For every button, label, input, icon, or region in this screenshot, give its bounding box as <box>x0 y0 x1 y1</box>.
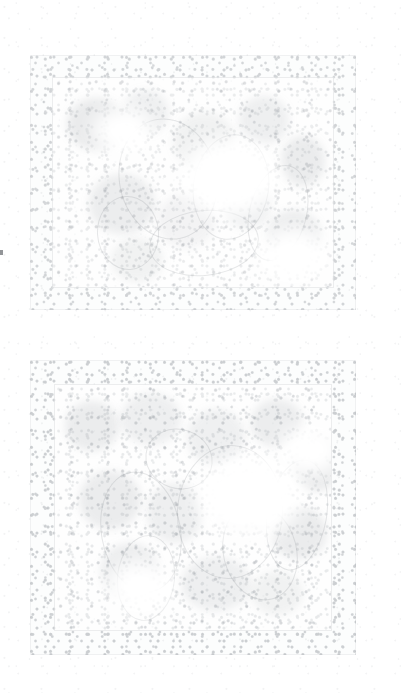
figure-contour <box>107 109 228 249</box>
faded-ink-mass <box>213 473 277 531</box>
plate-image-field <box>53 78 333 287</box>
plate-inner-frame <box>54 384 332 631</box>
faded-ink-mass <box>281 136 325 186</box>
faded-ink-mass <box>251 399 303 447</box>
illustration-plate <box>30 360 356 655</box>
faded-ink-mass <box>293 437 331 491</box>
edge-speck-mark <box>0 250 3 255</box>
figure-contour <box>137 420 220 498</box>
plate-image-field <box>55 385 331 630</box>
figure-contour <box>94 194 161 272</box>
figure-contour <box>258 455 331 576</box>
faded-ink-mass <box>79 471 141 529</box>
faded-ink-mass <box>187 409 245 465</box>
faded-ink-mass <box>121 393 181 445</box>
faded-ink-mass <box>271 507 327 559</box>
faded-ink-mass <box>147 483 203 543</box>
faded-ink-mass <box>67 98 125 150</box>
faded-ink-mass <box>123 90 169 134</box>
bleached-highlight <box>107 561 173 613</box>
figure-contour <box>91 465 191 599</box>
faded-ink-mass <box>89 174 155 234</box>
faded-ink-mass <box>101 543 159 599</box>
faded-ink-mass <box>251 571 303 615</box>
faded-ink-mass <box>111 238 163 282</box>
figure-contour <box>113 532 180 624</box>
plate-field-texture <box>55 385 331 630</box>
faded-ink-mass <box>181 557 251 611</box>
illustration-plate <box>30 55 356 310</box>
faded-ink-mass <box>239 96 289 144</box>
faded-ink-mass <box>223 182 271 228</box>
bleached-highlight <box>259 228 329 284</box>
faded-ink-mass <box>157 194 215 248</box>
bleached-highlight <box>181 138 277 216</box>
faded-ink-mass <box>65 401 119 451</box>
figure-contour <box>212 496 308 609</box>
scanned-page: Faded scanned page with two illustration… <box>0 0 402 693</box>
bleached-highlight <box>93 108 153 154</box>
bleached-highlight <box>197 455 301 539</box>
figure-contour <box>186 129 276 245</box>
figure-contour <box>238 158 318 267</box>
figure-contour <box>172 441 287 582</box>
bleached-highlight <box>279 425 331 475</box>
plate-field-texture <box>53 78 333 287</box>
plate-inner-frame <box>52 77 334 288</box>
figure-contour <box>146 204 262 281</box>
faded-ink-mass <box>267 210 321 260</box>
faded-ink-mass <box>173 112 235 170</box>
